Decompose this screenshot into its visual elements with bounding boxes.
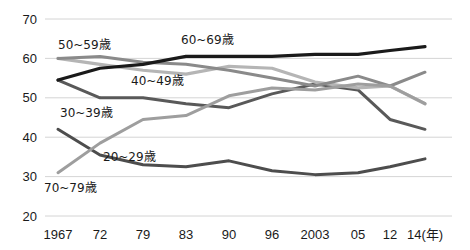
- x-tick-label: 05: [351, 227, 365, 242]
- y-tick-label: 40: [23, 130, 37, 145]
- series-line-50~59歳: [58, 56, 425, 86]
- chart-svg: 706050403020 196772798390962003051214(年)…: [0, 0, 470, 250]
- x-tick-label: 83: [179, 227, 193, 242]
- y-tick-label: 70: [23, 12, 37, 27]
- series-label-60~69歳: 60~69歳: [181, 33, 234, 47]
- x-tick-label: 1967: [44, 227, 73, 242]
- series-label-70~79歳: 70~79歳: [44, 181, 97, 195]
- series-label-50~59歳: 50~59歳: [58, 38, 111, 52]
- y-axis-tick-labels: 706050403020: [23, 12, 37, 224]
- y-tick-label: 60: [23, 51, 37, 66]
- y-tick-label: 30: [23, 169, 37, 184]
- x-tick-label: 79: [136, 227, 150, 242]
- x-tick-label: 72: [93, 227, 107, 242]
- y-tick-label: 20: [23, 209, 37, 224]
- series-label-30~39歳: 30~39歳: [60, 106, 113, 120]
- x-tick-label: 2003: [301, 227, 330, 242]
- x-tick-label: 96: [265, 227, 279, 242]
- series-label-40~49歳: 40~49歳: [131, 74, 184, 88]
- x-tick-label: 14(年): [407, 227, 443, 242]
- y-tick-label: 50: [23, 90, 37, 105]
- x-tick-label: 90: [222, 227, 236, 242]
- x-tick-label: 12: [383, 227, 397, 242]
- series-label-20~29歳: 20~29歳: [103, 150, 156, 164]
- line-chart: 706050403020 196772798390962003051214(年)…: [0, 0, 470, 250]
- series-line-60~69歳: [58, 47, 425, 80]
- x-axis-tick-labels: 196772798390962003051214(年): [44, 227, 444, 242]
